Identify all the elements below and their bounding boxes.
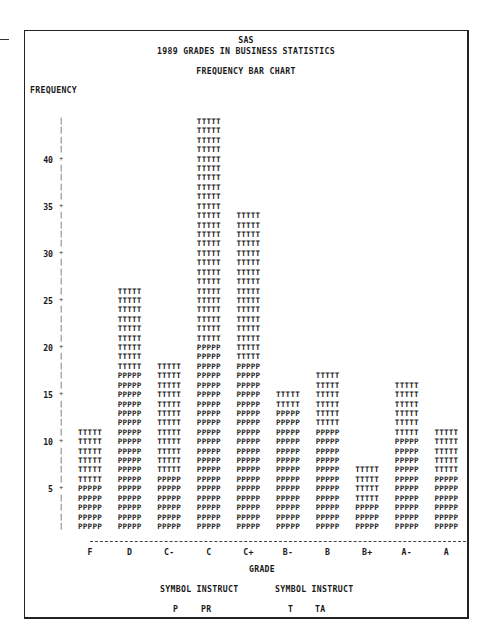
bar-segment-pr: PPPPP bbox=[118, 400, 142, 409]
legend-instruct-ta: TA bbox=[315, 604, 325, 614]
bar-segment-pr: PPPPP bbox=[316, 494, 340, 503]
bar-segment-pr: PPPPP bbox=[276, 418, 300, 427]
bar-segment-pr: PPPPP bbox=[276, 465, 300, 474]
chart-title: FREQUENCY BAR CHART bbox=[196, 66, 295, 76]
bar-segment-ta: TTTTT bbox=[78, 475, 102, 484]
bar-segment-pr: PPPPP bbox=[316, 447, 340, 456]
bar-segment-ta: TTTTT bbox=[236, 211, 260, 220]
y-axis-segment: | bbox=[58, 305, 64, 313]
bar-segment-ta: TTTTT bbox=[236, 334, 260, 343]
bar-segment-ta: TTTTT bbox=[395, 428, 419, 437]
y-tick-label: 15 bbox=[33, 390, 53, 400]
y-axis-segment: | bbox=[58, 503, 64, 511]
legend-symbol-p: P bbox=[173, 604, 178, 614]
bar-segment-pr: PPPPP bbox=[118, 428, 142, 437]
bar-segment-pr: PPPPP bbox=[157, 503, 181, 512]
bar-segment-pr: PPPPP bbox=[157, 522, 181, 531]
x-tick-label: A bbox=[444, 547, 449, 557]
bar-segment-ta: TTTTT bbox=[236, 277, 260, 286]
x-tick-label: C bbox=[206, 547, 211, 557]
bar-segment-pr: PPPPP bbox=[395, 494, 419, 503]
y-axis-segment: | bbox=[58, 522, 64, 530]
bar-segment-pr: PPPPP bbox=[276, 456, 300, 465]
bar-segment-pr: PPPPP bbox=[118, 465, 142, 474]
x-tick-label: B bbox=[325, 547, 330, 557]
bar-segment-pr: PPPPP bbox=[197, 475, 221, 484]
bar-segment-ta: TTTTT bbox=[236, 230, 260, 239]
bar-segment-ta: TTTTT bbox=[118, 343, 142, 352]
bar-segment-ta: TTTTT bbox=[197, 296, 221, 305]
x-axis-title: GRADE bbox=[249, 564, 275, 574]
y-axis-segment: | bbox=[58, 334, 64, 342]
bar-segment-ta: TTTTT bbox=[118, 352, 142, 361]
bar-segment-ta: TTTTT bbox=[197, 287, 221, 296]
bar-segment-ta: TTTTT bbox=[157, 447, 181, 456]
y-tick-label: 20 bbox=[33, 343, 53, 353]
y-axis-segment: | bbox=[58, 173, 64, 181]
bar-segment-ta: TTTTT bbox=[197, 315, 221, 324]
bar-segment-ta: TTTTT bbox=[197, 117, 221, 126]
bar-segment-pr: PPPPP bbox=[197, 381, 221, 390]
x-tick-label: C- bbox=[164, 547, 174, 557]
bar-segment-ta: TTTTT bbox=[197, 192, 221, 201]
y-tick-label: 5 bbox=[33, 484, 53, 494]
bar-segment-pr: PPPPP bbox=[197, 409, 221, 418]
bar-segment-ta: TTTTT bbox=[316, 400, 340, 409]
bar-segment-pr: PPPPP bbox=[316, 465, 340, 474]
bar-segment-ta: TTTTT bbox=[276, 390, 300, 399]
bar-segment-pr: PPPPP bbox=[395, 456, 419, 465]
y-axis-segment: | bbox=[58, 465, 64, 473]
header-line-2: 1989 GRADES IN BUSINESS STATISTICS bbox=[157, 46, 335, 56]
bar-segment-pr: PPPPP bbox=[434, 494, 458, 503]
bar-segment-ta: TTTTT bbox=[197, 183, 221, 192]
bar-segment-ta: TTTTT bbox=[197, 230, 221, 239]
y-axis-segment: | bbox=[58, 456, 64, 464]
bar-segment-ta: TTTTT bbox=[118, 296, 142, 305]
header-line-1: SAS bbox=[238, 35, 254, 45]
bar-segment-ta: TTTTT bbox=[236, 324, 260, 333]
bar-segment-ta: TTTTT bbox=[236, 249, 260, 258]
bar-segment-pr: PPPPP bbox=[197, 390, 221, 399]
x-tick-label: D bbox=[127, 547, 132, 557]
bar-segment-pr: PPPPP bbox=[236, 494, 260, 503]
bar-segment-ta: TTTTT bbox=[316, 371, 340, 380]
y-axis-segment: | bbox=[58, 183, 64, 191]
bar-segment-ta: TTTTT bbox=[197, 126, 221, 135]
bar-segment-pr: PPPPP bbox=[395, 437, 419, 446]
bar-segment-ta: TTTTT bbox=[236, 268, 260, 277]
bar-segment-ta: TTTTT bbox=[197, 249, 221, 258]
bar-segment-pr: PPPPP bbox=[276, 447, 300, 456]
bar-segment-pr: PPPPP bbox=[434, 522, 458, 531]
bar-segment-pr: PPPPP bbox=[157, 484, 181, 493]
bar-segment-pr: PPPPP bbox=[316, 484, 340, 493]
bar-segment-ta: TTTTT bbox=[197, 334, 221, 343]
bar-segment-pr: PPPPP bbox=[197, 343, 221, 352]
bar-segment-pr: PPPPP bbox=[118, 456, 142, 465]
bar-segment-ta: TTTTT bbox=[157, 409, 181, 418]
bar-segment-ta: TTTTT bbox=[395, 381, 419, 390]
bar-segment-ta: TTTTT bbox=[395, 400, 419, 409]
y-tick-label: 35 bbox=[33, 202, 53, 212]
bar-segment-pr: PPPPP bbox=[157, 513, 181, 522]
bar-segment-pr: PPPPP bbox=[434, 484, 458, 493]
bar-segment-pr: PPPPP bbox=[316, 522, 340, 531]
bar-segment-pr: PPPPP bbox=[236, 522, 260, 531]
bar-segment-pr: PPPPP bbox=[118, 475, 142, 484]
bar-segment-ta: TTTTT bbox=[118, 334, 142, 343]
y-axis-label: FREQUENCY bbox=[30, 85, 77, 95]
bar-segment-pr: PPPPP bbox=[118, 418, 142, 427]
bar-segment-ta: TTTTT bbox=[157, 371, 181, 380]
x-tick-label: C+ bbox=[243, 547, 253, 557]
y-tick-mark: + bbox=[58, 155, 64, 163]
y-axis-segment: | bbox=[58, 513, 64, 521]
bar-segment-ta: TTTTT bbox=[355, 465, 379, 474]
y-tick-mark: + bbox=[58, 202, 64, 210]
bar-segment-ta: TTTTT bbox=[78, 447, 102, 456]
y-axis-segment: | bbox=[58, 230, 64, 238]
bar-segment-pr: PPPPP bbox=[236, 456, 260, 465]
bar-segment-pr: PPPPP bbox=[197, 447, 221, 456]
bar-segment-pr: PPPPP bbox=[355, 503, 379, 512]
bar-segment-ta: TTTTT bbox=[197, 136, 221, 145]
legend-symbol-t: T bbox=[288, 604, 293, 614]
bar-segment-ta: TTTTT bbox=[197, 202, 221, 211]
